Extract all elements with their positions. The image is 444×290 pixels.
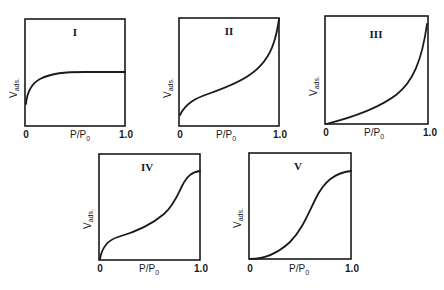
panel-V-xtick-min: 0 xyxy=(247,263,253,274)
panel-IV: IV 0 1.0 P/P0 Vads. xyxy=(82,154,208,276)
panel-III-ylabel: Vads. xyxy=(308,76,320,96)
svg-text:Vads.: Vads. xyxy=(232,208,244,228)
svg-text:P/P0: P/P0 xyxy=(70,129,90,142)
panel-II-xtick-min: 0 xyxy=(177,129,183,140)
panel-I-xtick-max: 1.0 xyxy=(119,129,133,140)
panel-IV-ylabel: Vads. xyxy=(82,209,94,229)
panel-II-label: II xyxy=(225,25,234,37)
panel-V-ylabel: Vads. xyxy=(232,208,244,228)
panel-II-ylabel: Vads. xyxy=(162,78,174,98)
panel-IV-xtick-max: 1.0 xyxy=(194,263,208,274)
panel-I-xlabel: P/P0 xyxy=(70,129,90,142)
isotherm-diagram: I 0 1.0 P/P0 Vads. II 0 1.0 P/P0 Vads. I… xyxy=(0,0,444,290)
svg-text:Vads.: Vads. xyxy=(308,76,320,96)
panel-I-label: I xyxy=(73,26,77,38)
svg-text:Vads.: Vads. xyxy=(82,209,94,229)
panel-I-ylabel: Vads. xyxy=(8,78,20,98)
svg-text:Vads.: Vads. xyxy=(8,78,20,98)
panel-IV-label: IV xyxy=(141,161,153,173)
panel-I-xtick-min: 0 xyxy=(23,129,29,140)
panel-V-curve xyxy=(250,171,351,259)
svg-text:Vads.: Vads. xyxy=(162,78,174,98)
panel-IV-xlabel: P/P0 xyxy=(139,263,159,276)
panel-III-xlabel: P/P0 xyxy=(364,127,384,140)
svg-text:P/P0: P/P0 xyxy=(289,263,309,276)
svg-text:P/P0: P/P0 xyxy=(364,127,384,140)
panel-I-curve xyxy=(26,72,125,104)
panel-II: II 0 1.0 P/P0 Vads. xyxy=(162,18,287,142)
panel-IV-xtick-min: 0 xyxy=(97,263,103,274)
panel-III-label: III xyxy=(370,28,383,40)
panel-II-xlabel: P/P0 xyxy=(216,129,236,142)
panel-V-xtick-max: 1.0 xyxy=(345,263,359,274)
panel-III: III 0 1.0 P/P0 Vads. xyxy=(308,16,437,140)
panel-IV-curve xyxy=(100,171,200,259)
panel-V: V 0 1.0 P/P0 Vads. xyxy=(232,153,359,276)
panel-III-xtick-max: 1.0 xyxy=(423,127,437,138)
panel-I: I 0 1.0 P/P0 Vads. xyxy=(8,19,133,142)
svg-text:P/P0: P/P0 xyxy=(139,263,159,276)
panel-V-label: V xyxy=(294,160,302,172)
panel-V-xlabel: P/P0 xyxy=(289,263,309,276)
svg-text:P/P0: P/P0 xyxy=(216,129,236,142)
panel-III-xtick-min: 0 xyxy=(323,127,329,138)
panel-II-xtick-max: 1.0 xyxy=(273,129,287,140)
